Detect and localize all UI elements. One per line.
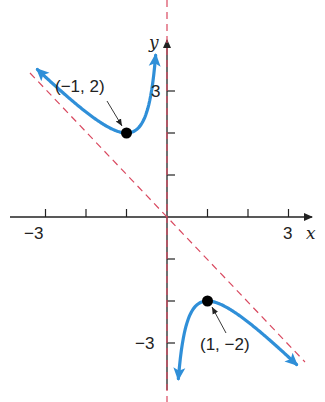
point-local-max [202,296,213,307]
x-axis [10,209,312,217]
leader-line-left [107,101,122,126]
x-axis-label: x [306,223,316,243]
leader-line-right [212,307,226,333]
x-tick-label-neg3: −3 [24,224,43,243]
point-label-right: (1, −2) [200,335,250,354]
x-tick-label-3: 3 [283,224,292,243]
y-axis [167,40,175,390]
y-tick-label-3: 3 [151,82,160,101]
y-axis-label: y [148,32,159,52]
graph: (−1, 2) (1, −2) −3 3 3 −3 x y [0,0,325,402]
point-label-left: (−1, 2) [55,77,105,96]
y-tick-label-neg3: −3 [135,334,154,353]
point-local-min [121,128,132,139]
